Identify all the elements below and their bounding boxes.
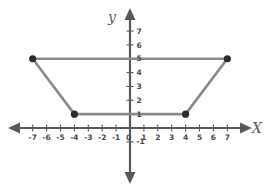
- x-axis-tick-labels: -7-6-5-4-3-2-101234567: [29, 133, 230, 142]
- x-tick-label: -5: [56, 133, 64, 142]
- x-axis-arrow-left-icon: [8, 123, 20, 134]
- x-tick-label: -2: [98, 133, 106, 142]
- x-tick-label: 0: [126, 133, 131, 142]
- vertex-point: [71, 111, 78, 118]
- y-tick-label: 6: [137, 41, 142, 50]
- y-tick-label: 4: [137, 68, 142, 77]
- graph-canvas: -7-6-5-4-3-2-101234567 -11234567 X y: [0, 0, 270, 188]
- y-tick-label: 3: [137, 82, 142, 91]
- y-tick-label: 1: [137, 110, 142, 119]
- y-tick-label: 2: [137, 96, 142, 105]
- x-axis-arrow-right-icon: [240, 123, 252, 134]
- y-tick-label: 7: [137, 27, 142, 36]
- y-tick-label: 5: [137, 54, 142, 63]
- y-axis-arrow-down-icon: [125, 172, 136, 184]
- x-axis-label: X: [251, 120, 263, 136]
- x-tick-label: -3: [84, 133, 92, 142]
- x-tick-label: 5: [197, 133, 202, 142]
- x-tick-label: -6: [42, 133, 50, 142]
- y-tick-label: -1: [137, 137, 145, 146]
- x-tick-label: 6: [211, 133, 216, 142]
- x-tick-label: 4: [183, 133, 188, 142]
- x-tick-label: 2: [155, 133, 160, 142]
- x-tick-label: 7: [225, 133, 230, 142]
- y-axis-label: y: [107, 9, 117, 25]
- axes-group: [8, 8, 252, 184]
- vertex-point: [224, 55, 231, 62]
- x-tick-label: -7: [29, 133, 37, 142]
- vertex-point: [182, 111, 189, 118]
- vertex-point: [29, 55, 36, 62]
- y-axis-arrow-up-icon: [125, 8, 136, 20]
- x-tick-label: -1: [112, 133, 120, 142]
- x-tick-label: 3: [169, 133, 174, 142]
- coordinate-plane-figure: -7-6-5-4-3-2-101234567 -11234567 X y: [0, 0, 270, 188]
- x-tick-label: -4: [70, 133, 78, 142]
